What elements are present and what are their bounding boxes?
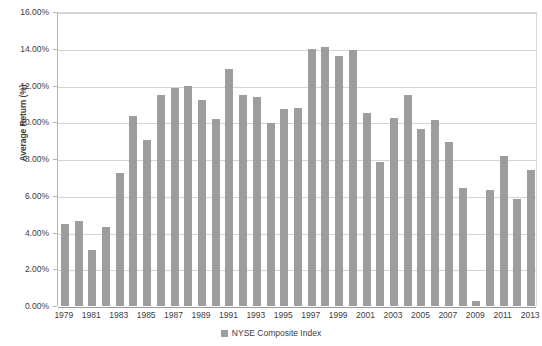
plot-area: [57, 12, 537, 306]
bar: [335, 56, 343, 306]
bar: [417, 129, 425, 306]
bar: [239, 95, 247, 306]
y-tick-label: 0.00%: [25, 301, 49, 311]
bar: [171, 88, 179, 306]
x-tick-label: 2001: [356, 310, 375, 320]
bar: [431, 120, 439, 306]
bar: [280, 109, 288, 306]
bar: [486, 190, 494, 306]
y-tick-label: 2.00%: [25, 264, 49, 274]
legend-swatch-icon: [221, 330, 228, 337]
bar: [500, 156, 508, 306]
y-tick-label: 8.00%: [25, 154, 49, 164]
x-tick-label: 2003: [384, 310, 403, 320]
bar: [102, 227, 110, 306]
x-tick-label: 1979: [54, 310, 73, 320]
x-tick-label: 1995: [274, 310, 293, 320]
bar: [157, 95, 165, 306]
x-tick-label: 2005: [411, 310, 430, 320]
x-axis-tick-labels: 1979198119831985198719891991199319951997…: [57, 308, 537, 324]
x-tick-label: 2013: [521, 310, 540, 320]
bar: [321, 47, 329, 306]
y-axis-tick-labels: 0.00%2.00%4.00%6.00%8.00%10.00%12.00%14.…: [0, 0, 57, 320]
bar: [445, 142, 453, 306]
bar: [184, 86, 192, 307]
y-tick-label: 4.00%: [25, 228, 49, 238]
bar: [75, 221, 83, 306]
bar-series: [58, 13, 536, 306]
x-tick-label: 1981: [82, 310, 101, 320]
x-tick-label: 1985: [137, 310, 156, 320]
y-tick-label: 6.00%: [25, 191, 49, 201]
bar: [116, 173, 124, 306]
x-tick-label: 1983: [109, 310, 128, 320]
bar: [404, 95, 412, 306]
x-tick-label: 1999: [329, 310, 348, 320]
chart-legend: NYSE Composite Index: [0, 328, 542, 338]
bar: [129, 116, 137, 306]
x-tick-label: 1991: [219, 310, 238, 320]
bar: [212, 119, 220, 306]
x-tick-label: 2007: [438, 310, 457, 320]
bar: [363, 113, 371, 306]
bar: [88, 250, 96, 306]
x-tick-label: 2009: [466, 310, 485, 320]
x-tick-label: 2011: [494, 310, 512, 320]
bar: [349, 50, 357, 306]
x-tick-label: 1997: [301, 310, 320, 320]
bar: [459, 188, 467, 306]
x-tick-label: 1987: [164, 310, 183, 320]
bar: [513, 199, 521, 306]
bar: [308, 49, 316, 306]
bar: [390, 118, 398, 306]
bar: [294, 108, 302, 306]
y-tick-label: 12.00%: [20, 81, 49, 91]
x-tick-label: 1993: [246, 310, 265, 320]
bar: [198, 100, 206, 306]
legend-label: NYSE Composite Index: [232, 328, 321, 338]
bar: [225, 69, 233, 306]
y-tick-label: 14.00%: [20, 44, 49, 54]
bar: [253, 97, 261, 306]
bar: [143, 140, 151, 306]
y-tick-label: 10.00%: [20, 117, 49, 127]
bar: [376, 162, 384, 306]
bar-chart: Average Return (%) 0.00%2.00%4.00%6.00%8…: [0, 0, 542, 346]
y-tick-label: 16.00%: [20, 7, 49, 17]
y-tick-mark: [53, 306, 57, 307]
x-tick-label: 1989: [192, 310, 211, 320]
bar: [61, 224, 69, 306]
bar: [267, 123, 275, 306]
bar: [527, 170, 535, 306]
bar: [472, 301, 480, 307]
